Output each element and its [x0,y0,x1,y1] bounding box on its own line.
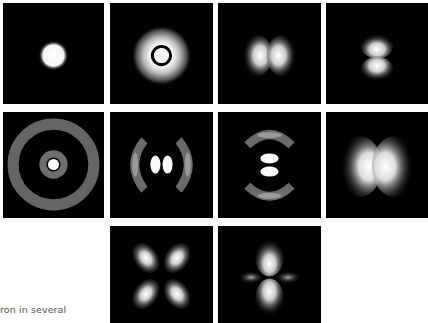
orbital-panel-r2c3 [218,112,321,218]
orbital-panel-r3c3 [218,226,321,323]
orbital-panel-r3c2 [110,226,213,323]
horizontal-arcs-orbital-image [110,112,213,218]
vertical-lobes-image [326,3,428,104]
orbital-panel-r1c4 [326,3,428,104]
orbital-panel-r1c2 [110,3,213,104]
spherical-orbital-image [3,3,104,104]
orbital-panel-r1c1 [3,3,104,104]
dz2-orbital-image [218,226,321,323]
ring-orbital-image [110,3,213,104]
concentric-rings-orbital-image [3,112,104,218]
horizontal-lobes-image [218,3,321,104]
orbital-panel-r2c1 [3,112,104,218]
orbital-panel-r2c4 [326,112,428,218]
orbital-panel-r1c3 [218,3,321,104]
figure-caption-fragment: ron in several [0,304,66,315]
large-horizontal-lobes-image [326,112,428,218]
vertical-arcs-orbital-image [218,112,321,218]
orbital-panel-r2c2 [110,112,213,218]
clover-orbital-image [110,226,213,323]
